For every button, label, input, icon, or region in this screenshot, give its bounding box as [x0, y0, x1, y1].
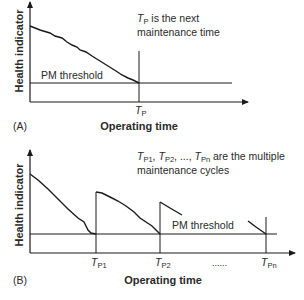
health-cycle-2-curve	[96, 192, 160, 234]
health-cycle-1-curve	[30, 174, 96, 234]
y-axis-label: Health indicator	[13, 9, 25, 93]
pm-threshold-label: PM threshold	[41, 69, 103, 81]
tpn-tick-label: TPn	[261, 256, 277, 270]
pm-threshold-label: PM threshold	[172, 219, 234, 231]
note-text: TP is the next	[137, 12, 199, 26]
tp-tick-label: TP	[135, 104, 146, 118]
panel-b: Health indicator PM threshold TP1, TP2, …	[13, 150, 295, 286]
note-text-line2: maintenance cycles	[137, 164, 229, 176]
ellipsis-label: ......	[212, 258, 227, 268]
tp1-tick-label: TP1	[91, 256, 107, 270]
panel-tag-b: (B)	[13, 274, 27, 286]
x-axis-label: Operating time	[100, 120, 178, 132]
tp2-tick-label: TP2	[155, 256, 171, 270]
x-axis-label: Operating time	[124, 274, 202, 286]
y-axis-label: Health indicator	[13, 163, 25, 247]
note-text: TP1, TP2, ..., TPn are the multiple	[137, 150, 285, 164]
note-text-line2: maintenance time	[137, 26, 220, 38]
panel-tag-a: (A)	[13, 120, 27, 132]
panel-a: Health indicator PM threshold TP is the …	[13, 2, 248, 132]
maintenance-diagram: Health indicator PM threshold TP is the …	[0, 0, 304, 300]
health-cycle-3-curve	[160, 202, 182, 215]
health-cycle-n-curve	[248, 221, 266, 234]
